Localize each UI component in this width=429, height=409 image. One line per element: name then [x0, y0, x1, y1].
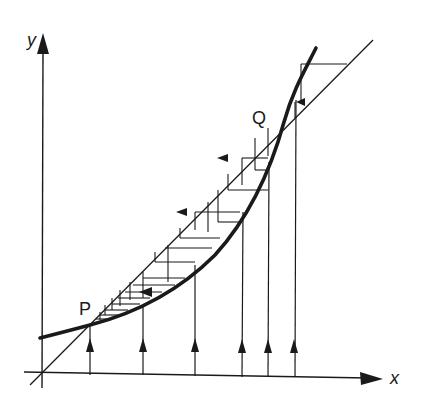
point-p-label: P: [79, 299, 91, 319]
staircase-arrows: [139, 98, 305, 297]
vertical-arrowheads: [86, 338, 298, 353]
x-axis: [24, 372, 383, 385]
x-axis-label: x: [389, 368, 400, 388]
up-arrow-icon: [290, 339, 298, 353]
up-arrow-icon: [238, 339, 246, 353]
y-axis-label: y: [25, 30, 37, 50]
function-curve: [40, 48, 316, 338]
cobweb-diagram: y x P Q: [0, 0, 429, 409]
up-arrow-icon: [86, 338, 94, 352]
up-arrow-icon: [264, 339, 272, 353]
left-arrow-icon: [176, 208, 187, 216]
left-arrow-icon: [217, 154, 228, 162]
x-axis-arrowhead-icon: [360, 372, 383, 385]
left-arrow-icon: [139, 287, 152, 297]
y-axis-arrowhead-icon: [37, 33, 49, 54]
point-q-label: Q: [252, 108, 266, 128]
up-arrow-icon: [191, 338, 199, 352]
up-arrow-icon: [139, 338, 147, 352]
